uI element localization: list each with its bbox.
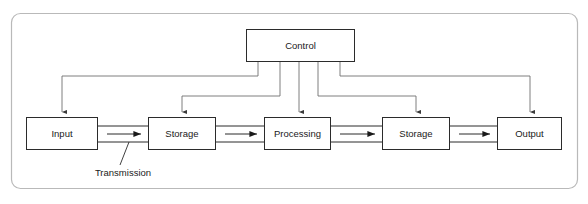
- node-control-label: Control: [285, 40, 316, 51]
- node-storage-2-label: Storage: [399, 128, 432, 139]
- node-storage-2[interactable]: Storage: [383, 118, 450, 150]
- node-input[interactable]: Input: [27, 118, 98, 150]
- node-output[interactable]: Output: [498, 118, 562, 150]
- node-input-label: Input: [51, 128, 72, 139]
- diagram-canvas: Control Input Storage Processing Storage…: [0, 0, 588, 204]
- block-diagram: Control Input Storage Processing Storage…: [0, 0, 588, 204]
- transmission-label: Transmission: [95, 167, 151, 178]
- node-storage-1-label: Storage: [165, 128, 198, 139]
- node-output-label: Output: [515, 128, 544, 139]
- node-processing[interactable]: Processing: [265, 118, 331, 150]
- node-processing-label: Processing: [274, 128, 321, 139]
- node-storage-1[interactable]: Storage: [149, 118, 216, 150]
- node-control[interactable]: Control: [247, 30, 355, 62]
